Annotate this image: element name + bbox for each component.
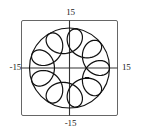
tick-label-right: 15 (122, 63, 140, 72)
tick-label-left: -15 (1, 63, 21, 72)
figure-container: 15 -15 -15 15 (0, 0, 141, 136)
plot-svg (0, 0, 141, 136)
tick-label-bottom: -15 (0, 119, 141, 128)
tick-label-top: 15 (0, 8, 141, 17)
